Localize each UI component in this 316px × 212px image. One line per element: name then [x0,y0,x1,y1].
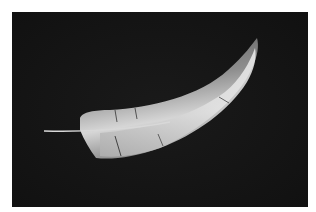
feather-illustration [12,12,308,207]
photo-frame [12,12,308,207]
